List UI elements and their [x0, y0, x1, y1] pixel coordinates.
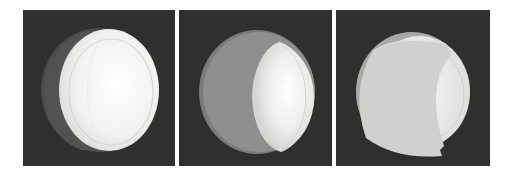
panel-1-image — [23, 10, 175, 166]
disc-render-wide-crescent — [179, 10, 332, 166]
panel-2-image — [179, 10, 332, 166]
panel-3-image — [336, 10, 490, 166]
disc-render-thin-crescent — [23, 10, 175, 166]
disc-render-notched-cap — [336, 10, 490, 166]
